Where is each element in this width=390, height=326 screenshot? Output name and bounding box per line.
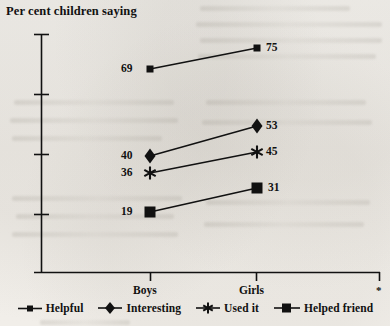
legend-label-interesting: Interesting [126, 302, 181, 314]
legend-label-helped-friend: Helped friend [304, 302, 373, 314]
marker-helped-friend-girls [252, 183, 263, 194]
legend-label-helpful: Helpful [46, 302, 84, 314]
x-axis-label-girls: Girls [239, 284, 264, 296]
chart-figure: Per cent children saying [0, 0, 390, 326]
legend-marker-diamond-icon [97, 301, 123, 315]
legend-label-used-it: Used it [224, 302, 259, 314]
data-label-usedit-girls: 45 [266, 146, 278, 158]
data-label-helped-friend-boys: 19 [121, 206, 133, 218]
series-line-helped-friend [150, 188, 257, 212]
legend-item-helpful[interactable]: Helpful [17, 302, 84, 315]
legend-item-interesting[interactable]: Interesting [97, 301, 181, 315]
series-line-usedit [150, 152, 257, 173]
marker-helpful-boys [147, 66, 154, 73]
marker-helped-friend-boys [145, 207, 156, 218]
legend-item-used-it[interactable]: Used it [195, 301, 259, 315]
legend-marker-small-square-icon [17, 302, 43, 315]
legend-item-helped-friend[interactable]: Helped friend [273, 301, 373, 315]
marker-usedit-boys [144, 167, 155, 180]
series-line-helpful [150, 48, 257, 69]
data-label-helpful-boys: 69 [121, 63, 133, 75]
marker-interesting-boys [145, 149, 156, 164]
series-line-interesting [150, 126, 257, 156]
marker-interesting-girls [252, 119, 263, 134]
data-label-interesting-boys: 40 [121, 150, 133, 162]
x-axis-label-boys: Boys [133, 284, 157, 296]
axis-footnote-asterisk: * [376, 285, 382, 296]
plot-area [0, 0, 390, 300]
data-label-helped-friend-girls: 31 [268, 182, 280, 194]
data-label-helpful-girls: 75 [266, 42, 278, 54]
chart-legend: Helpful Interesting Used it [0, 301, 390, 315]
data-label-usedit-boys: 36 [121, 167, 133, 179]
legend-marker-big-square-icon [273, 301, 301, 315]
marker-helpful-girls [254, 45, 261, 52]
marker-usedit-girls [251, 146, 262, 159]
legend-marker-asterisk-icon [195, 301, 221, 315]
data-label-interesting-girls: 53 [266, 120, 278, 132]
